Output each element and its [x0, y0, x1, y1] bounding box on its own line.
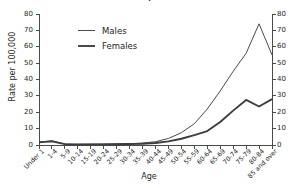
series-lines [0, 0, 298, 188]
line-females [39, 99, 272, 144]
line-males [39, 24, 272, 145]
chart-figure: Wales, 1991 0010102020303040405050606070… [0, 0, 298, 188]
